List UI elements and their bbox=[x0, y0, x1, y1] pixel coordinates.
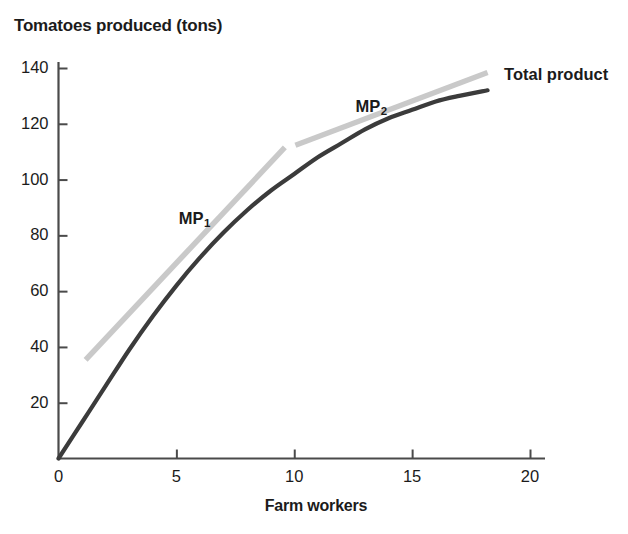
x-tick-label: 0 bbox=[39, 467, 79, 486]
y-tick-label: 20 bbox=[7, 393, 49, 412]
x-axis-title: Farm workers bbox=[0, 497, 628, 515]
mp2-tangent-line bbox=[295, 72, 487, 145]
y-tick-label: 60 bbox=[7, 281, 49, 300]
y-tick-label: 100 bbox=[7, 170, 49, 189]
x-tick-label: 10 bbox=[274, 467, 314, 486]
y-axis-ticks bbox=[59, 69, 68, 404]
x-axis-ticks bbox=[177, 450, 531, 459]
total-product-curve bbox=[59, 90, 488, 458]
mp1-label-text: MP bbox=[179, 209, 204, 227]
mp2-label: MP2 bbox=[356, 97, 387, 116]
y-axis-title: Tomatoes produced (tons) bbox=[14, 16, 222, 36]
y-tick-label: 120 bbox=[7, 114, 49, 133]
mp1-tangent-line bbox=[86, 147, 285, 359]
mp2-label-subscript: 2 bbox=[381, 105, 387, 117]
axis-lines bbox=[57, 62, 545, 459]
y-tick-label: 40 bbox=[7, 337, 49, 356]
y-tick-label: 80 bbox=[7, 225, 49, 244]
y-tick-label: 140 bbox=[7, 58, 49, 77]
mp2-label-text: MP bbox=[356, 97, 381, 115]
x-tick-label: 15 bbox=[392, 467, 432, 486]
mp1-label-subscript: 1 bbox=[204, 217, 210, 229]
x-tick-label: 5 bbox=[156, 467, 196, 486]
chart-figure: Tomatoes produced (tons) 204060801001201… bbox=[0, 0, 628, 534]
mp1-label: MP1 bbox=[179, 209, 210, 228]
total-product-label: Total product bbox=[504, 65, 608, 84]
x-tick-label: 20 bbox=[510, 467, 550, 486]
